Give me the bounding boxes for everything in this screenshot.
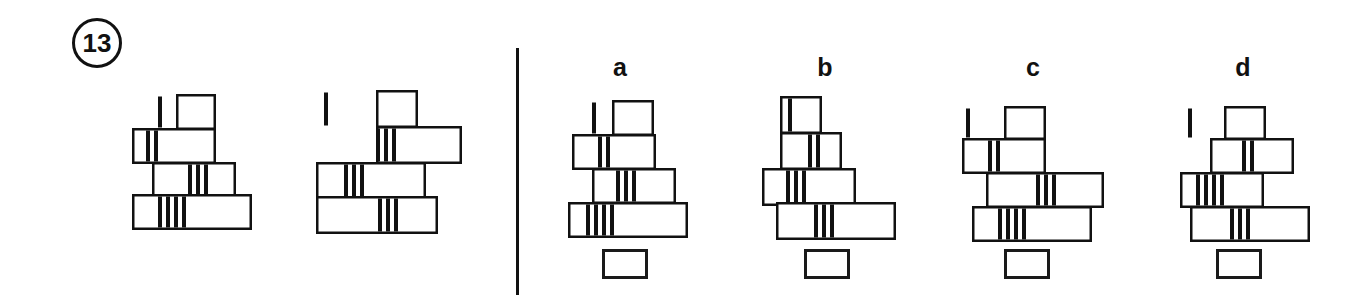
option-a-figure-brick-bottom <box>569 203 687 237</box>
answer-checkbox-c[interactable] <box>1004 249 1050 279</box>
option-d-figure-brick-third-stripe-3 <box>1212 175 1216 206</box>
prompt-figure-2-brick-third-stripe-1 <box>344 165 348 198</box>
option-a-figure-brick-second <box>573 135 655 169</box>
option-c-figure-brick-second <box>963 139 1045 173</box>
option-b-figure-brick-bottom-stripe-2 <box>822 205 826 238</box>
prompt-figure-1-brick-second-stripe-2 <box>154 131 158 162</box>
answer-checkbox-b[interactable] <box>804 249 850 279</box>
prompt-figure-1-brick-bottom-body <box>133 195 251 229</box>
option-c-figure-brick-top-stripe-1 <box>966 109 970 138</box>
option-d-figure-brick-third-stripe-2 <box>1204 175 1208 206</box>
option-a-figure-brick-top-stripe-1 <box>592 103 596 134</box>
option-b-figure-brick-top <box>781 97 821 133</box>
prompt-figure-2-brick-third-stripe-3 <box>360 165 364 198</box>
option-a-figure-brick-bottom-stripe-2 <box>594 205 598 236</box>
option-c-figure-brick-top-body <box>1005 107 1045 139</box>
prompt-figure-2-brick-third <box>317 163 425 199</box>
prompt-figure-1-brick-bottom-stripe-3 <box>174 197 178 228</box>
prompt-figure-1-brick-third-stripe-1 <box>188 165 192 196</box>
option-a-figure-brick-third-stripe-3 <box>632 171 636 202</box>
prompt-figure-1-brick-bottom-stripe-1 <box>158 197 162 228</box>
option-letter-b: b <box>810 55 840 80</box>
vertical-divider <box>516 48 519 295</box>
option-a-figure-brick-bottom-stripe-3 <box>602 205 606 236</box>
option-a-figure-brick-third-stripe-2 <box>624 171 628 202</box>
worksheet-page: 13abcd <box>0 0 1368 295</box>
option-c-figure-brick-bottom <box>973 207 1091 241</box>
option-c-figure-brick-third <box>987 173 1103 207</box>
option-a-figure-brick-third-stripe-1 <box>616 171 620 202</box>
option-c-figure-brick-bottom-stripe-4 <box>1022 209 1026 240</box>
option-a-figure-brick-second-stripe-1 <box>598 137 602 168</box>
option-c-figure-brick-bottom-stripe-1 <box>998 209 1002 240</box>
prompt-figure-1-brick-top <box>158 95 215 129</box>
prompt-figure-1-brick-bottom-stripe-4 <box>182 197 186 228</box>
option-d-figure-brick-top-body <box>1225 107 1265 139</box>
option-b-figure-brick-bottom <box>777 203 895 239</box>
option-c-figure-brick-top <box>966 107 1045 139</box>
option-b-figure-brick-bottom-stripe-3 <box>830 205 834 238</box>
option-d-figure-canvas <box>1180 106 1314 232</box>
prompt-figure-2-brick-second-stripe-1 <box>376 129 380 162</box>
option-b-figure-brick-top-body <box>781 97 821 133</box>
option-d-figure-brick-bottom-stripe-1 <box>1230 209 1234 240</box>
option-b-figure-brick-third-body <box>763 169 855 205</box>
prompt-figure-2-brick-second-body <box>377 127 461 163</box>
prompt-figure-2-brick-top <box>324 91 417 127</box>
prompt-figure-1-canvas <box>128 94 260 226</box>
option-b-figure-brick-third-stripe-3 <box>802 171 806 204</box>
option-d-figure-brick-bottom <box>1191 207 1309 241</box>
option-c-figure-brick-bottom-stripe-2 <box>1006 209 1010 240</box>
prompt-figure-1-brick-third-stripe-2 <box>196 165 200 196</box>
option-b-figure <box>762 96 898 232</box>
option-a-figure-brick-bottom-stripe-1 <box>586 205 590 236</box>
option-d-figure-brick-top <box>1188 107 1265 139</box>
option-c-figure-brick-second-stripe-2 <box>996 141 1000 172</box>
prompt-figure-2-brick-second-stripe-3 <box>392 129 396 162</box>
option-d-figure-brick-bottom-stripe-2 <box>1238 209 1242 240</box>
prompt-figure-2-brick-bottom-stripe-3 <box>394 199 398 232</box>
option-b-figure-brick-second-stripe-2 <box>816 135 820 168</box>
option-letter-d: d <box>1228 55 1258 80</box>
prompt-figure-2-brick-bottom-stripe-2 <box>386 199 390 232</box>
prompt-figure-1 <box>128 94 260 226</box>
question-number-label: 13 <box>83 30 112 56</box>
option-c-figure-brick-bottom-stripe-3 <box>1014 209 1018 240</box>
prompt-figure-2-brick-second-stripe-2 <box>384 129 388 162</box>
option-a-figure-brick-bottom-stripe-4 <box>610 205 614 236</box>
prompt-figure-2-brick-top-stripe-1 <box>324 93 328 126</box>
option-d-figure <box>1180 106 1314 232</box>
option-b-figure-brick-third-stripe-2 <box>794 171 798 204</box>
option-b-figure-canvas <box>762 96 898 232</box>
option-letter-c: c <box>1018 55 1048 80</box>
prompt-figure-1-brick-bottom-stripe-2 <box>166 197 170 228</box>
option-a-figure-brick-second-stripe-2 <box>606 137 610 168</box>
prompt-figure-1-brick-bottom <box>133 195 251 229</box>
prompt-figure-1-brick-second-body <box>133 129 215 163</box>
option-a-figure <box>568 100 698 230</box>
prompt-figure-1-brick-third-body <box>153 163 235 197</box>
prompt-figure-2-brick-bottom-body <box>317 197 437 233</box>
option-d-figure-brick-bottom-stripe-3 <box>1246 209 1250 240</box>
prompt-figure-1-brick-third-stripe-3 <box>204 165 208 196</box>
prompt-figure-2-brick-third-stripe-2 <box>352 165 356 198</box>
prompt-figure-2-brick-top-body <box>377 91 417 127</box>
option-b-figure-brick-second-stripe-1 <box>808 135 812 168</box>
answer-checkbox-a[interactable] <box>602 249 648 279</box>
option-b-figure-brick-top-stripe-1 <box>788 99 792 132</box>
prompt-figure-2-brick-bottom-stripe-1 <box>378 199 382 232</box>
option-d-figure-brick-third-stripe-1 <box>1196 175 1200 206</box>
option-b-figure-brick-third-stripe-1 <box>786 171 790 204</box>
option-c-figure-brick-third-stripe-1 <box>1036 175 1040 206</box>
prompt-figure-2 <box>316 90 452 226</box>
option-d-figure-brick-second <box>1211 139 1293 173</box>
prompt-figure-1-brick-second-stripe-1 <box>146 131 150 162</box>
option-c-figure-brick-bottom-body <box>973 207 1091 241</box>
option-d-figure-brick-third <box>1181 173 1263 207</box>
prompt-figure-2-canvas <box>316 90 452 226</box>
answer-checkbox-d[interactable] <box>1216 249 1262 279</box>
option-a-figure-brick-third <box>593 169 675 203</box>
prompt-figure-2-brick-third-body <box>317 163 425 199</box>
prompt-figure-1-brick-top-body <box>177 95 215 129</box>
option-d-figure-brick-second-stripe-2 <box>1250 141 1254 172</box>
